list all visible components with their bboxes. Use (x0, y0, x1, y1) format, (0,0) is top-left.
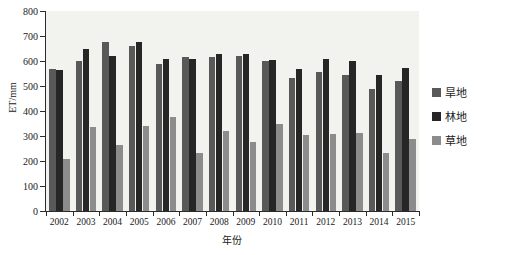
legend-item[interactable]: 草地 (432, 128, 508, 152)
y-axis-tick (40, 61, 46, 62)
x-axis-tick-label: 2002 (50, 217, 69, 227)
bar (236, 56, 242, 212)
legend-label: 林地 (445, 108, 467, 124)
y-axis-tick-label: 300 (23, 131, 38, 142)
x-axis-tick (99, 211, 100, 216)
legend-label: 旱地 (445, 84, 467, 100)
y-axis-tick (40, 186, 46, 187)
x-axis-tick-label: 2006 (156, 217, 175, 227)
bar (376, 75, 382, 211)
y-axis-tick (40, 86, 46, 87)
bar (196, 153, 202, 211)
bar (76, 61, 82, 212)
x-axis-tick (259, 211, 260, 216)
x-axis-tick (46, 211, 47, 216)
bar (243, 54, 249, 211)
bar (170, 117, 176, 211)
x-axis-title: 年份 (45, 232, 418, 247)
bar (129, 46, 135, 212)
bar (143, 126, 149, 211)
bar (383, 153, 389, 211)
bar (90, 127, 96, 211)
y-axis-tick-label: 700 (23, 31, 38, 42)
x-axis-tick-label: 2011 (290, 217, 309, 227)
x-axis-tick (286, 211, 287, 216)
x-axis-tick (312, 211, 313, 216)
x-axis-tick-label: 2009 (236, 217, 255, 227)
y-axis-tick (40, 11, 46, 12)
x-axis-tick-label: 2005 (130, 217, 149, 227)
bar (269, 60, 275, 211)
legend-label: 草地 (445, 132, 467, 148)
x-axis-tick-label: 2012 (316, 217, 335, 227)
bar (330, 134, 336, 212)
x-axis-tick (153, 211, 154, 216)
bar (303, 135, 309, 211)
y-axis-tick-label: 400 (23, 106, 38, 117)
x-axis-tick-label: 2007 (183, 217, 202, 227)
bar (56, 70, 62, 211)
legend-swatch-icon (432, 136, 441, 145)
bar (409, 139, 415, 211)
y-axis-tick-label: 600 (23, 56, 38, 67)
y-axis-tick (40, 36, 46, 37)
x-axis-tick (179, 211, 180, 216)
legend-swatch-icon (432, 88, 441, 97)
bar (395, 81, 401, 211)
bar (189, 59, 195, 211)
x-axis-tick (339, 211, 340, 216)
bar (402, 68, 408, 211)
x-axis-tick-label: 2004 (103, 217, 122, 227)
bar-chart: ET/mm 0100200300400500600700800200220032… (0, 0, 511, 255)
bar (163, 59, 169, 212)
bar (156, 64, 162, 211)
bar (63, 159, 69, 211)
x-axis-tick (73, 211, 74, 216)
bar (136, 42, 142, 212)
legend-swatch-icon (432, 112, 441, 121)
plot-inner: 0100200300400500600700800200220032004200… (46, 11, 419, 211)
plot-area: 0100200300400500600700800200220032004200… (45, 11, 419, 212)
legend-item[interactable]: 林地 (432, 104, 508, 128)
x-axis-tick-label: 2003 (76, 217, 95, 227)
x-axis-tick (126, 211, 127, 216)
chart-legend: 旱地林地草地 (432, 80, 508, 152)
x-axis-tick (233, 211, 234, 216)
x-axis-tick-label: 2010 (263, 217, 282, 227)
x-axis-tick (366, 211, 367, 216)
y-axis-tick (40, 111, 46, 112)
bar (289, 78, 295, 211)
x-axis-tick (392, 211, 393, 216)
x-axis-tick (419, 211, 420, 216)
bar (116, 145, 122, 211)
bar (262, 61, 268, 212)
x-axis-tick-label: 2015 (396, 217, 415, 227)
y-axis-tick (40, 161, 46, 162)
bar (296, 69, 302, 211)
bar (216, 54, 222, 211)
x-axis-tick-label: 2014 (370, 217, 389, 227)
bar (102, 42, 108, 211)
bar (223, 131, 229, 212)
bar (83, 49, 89, 211)
bar (356, 133, 362, 211)
bar (342, 75, 348, 211)
y-axis-tick-label: 0 (33, 206, 38, 217)
y-axis-tick-label: 200 (23, 156, 38, 167)
bar (349, 61, 355, 211)
bar (209, 57, 215, 211)
bar (250, 142, 256, 212)
x-axis-tick-label: 2013 (343, 217, 362, 227)
bar (316, 72, 322, 212)
y-axis-title: ET/mm (7, 68, 18, 128)
bar (49, 69, 55, 212)
legend-item[interactable]: 旱地 (432, 80, 508, 104)
y-axis-tick-label: 500 (23, 81, 38, 92)
bar (323, 59, 329, 211)
bar (109, 56, 115, 212)
x-axis-tick-label: 2008 (210, 217, 229, 227)
y-axis-tick-label: 800 (23, 6, 38, 17)
y-axis-tick (40, 136, 46, 137)
bar (369, 89, 375, 211)
x-axis-tick (206, 211, 207, 216)
